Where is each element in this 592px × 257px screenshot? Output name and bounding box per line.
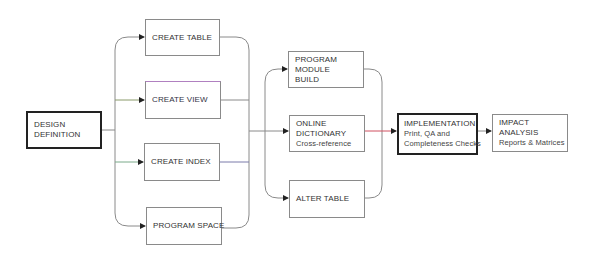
- node-sublabel: Completeness Checks: [404, 139, 476, 149]
- node-label: ALTER TABLE: [296, 194, 364, 204]
- node-impact-analysis: IMPACT ANALYSIS Reports & Matrices: [492, 114, 568, 152]
- node-implementation: IMPLEMENTATION Print, QA and Completenes…: [397, 113, 478, 155]
- node-create-table: CREATE TABLE: [145, 19, 220, 56]
- node-label: PROGRAM: [295, 55, 363, 65]
- node-create-index: CREATE INDEX: [144, 143, 220, 181]
- node-program-module-build: PROGRAM MODULE BUILD: [288, 51, 364, 88]
- node-create-view: CREATE VIEW: [145, 81, 221, 119]
- node-label: BUILD: [295, 75, 363, 85]
- node-sublabel: Reports & Matrices: [499, 138, 567, 148]
- node-program-space: PROGRAM SPACE: [146, 207, 222, 245]
- node-alter-table: ALTER TABLE: [289, 180, 365, 218]
- node-label: DEFINITION: [34, 130, 100, 140]
- node-label: ANALYSIS: [499, 128, 567, 138]
- node-label: MODULE: [295, 65, 363, 75]
- node-online-dictionary: ONLINE DICTIONARY Cross-reference: [289, 115, 365, 152]
- second-merge-trunk: [364, 69, 382, 198]
- node-sublabel: Print, QA and: [404, 129, 476, 139]
- node-design-definition: DESIGN DEFINITION: [26, 111, 102, 149]
- node-label: CREATE VIEW: [152, 95, 220, 105]
- merge-trunk: [220, 37, 249, 228]
- node-label: IMPLEMENTATION: [404, 119, 476, 129]
- node-label: DESIGN: [34, 120, 100, 130]
- node-label: CREATE TABLE: [152, 33, 219, 43]
- node-label: DICTIONARY: [296, 129, 364, 139]
- arrow-to-alter-table: [265, 185, 288, 198]
- node-label: PROGRAM SPACE: [153, 221, 221, 231]
- arrow-to-create-table: [115, 37, 144, 50]
- arrow-to-program-space: [115, 213, 145, 226]
- arrow-to-program-module-build: [265, 69, 287, 82]
- node-sublabel: Cross-reference: [296, 139, 364, 149]
- node-label: CREATE INDEX: [151, 157, 219, 167]
- node-label: ONLINE: [296, 119, 364, 129]
- node-label: IMPACT: [499, 118, 567, 128]
